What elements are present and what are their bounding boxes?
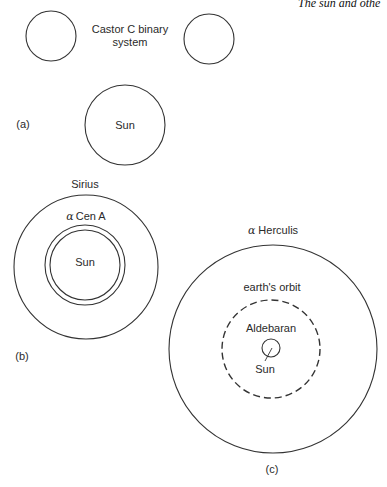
sun-pointer-line	[265, 348, 272, 361]
aldebaran-circle	[262, 339, 280, 357]
panel-b-label: (b)	[15, 350, 28, 362]
castor-c-star-left	[26, 11, 76, 61]
running-header: The sun and othe	[298, 0, 381, 10]
alpha-herculis-circle	[169, 245, 377, 453]
aldebaran-label: Aldebaran	[246, 322, 296, 334]
panel-a: Castor C binary system Sun (a)	[16, 11, 234, 165]
panel-c-label: (c)	[266, 463, 279, 475]
earths-orbit-label: earth's orbit	[243, 281, 300, 293]
castor-caption-line1: Castor C binary	[92, 23, 169, 35]
sun-label-a: Sun	[115, 119, 135, 131]
panel-c: αHerculis earth's orbit Aldebaran Sun (c…	[169, 224, 377, 475]
sun-label-c: Sun	[255, 363, 275, 375]
sun-label-b: Sun	[75, 256, 95, 268]
sirius-label: Sirius	[71, 178, 99, 190]
star-size-diagram: The sun and othe Castor C binary system …	[0, 0, 387, 487]
panel-a-label: (a)	[16, 118, 29, 130]
alpha-cen-a-label: αCen A	[66, 210, 106, 223]
panel-b: Sirius αCen A Sun (b)	[14, 178, 158, 362]
castor-caption-line2: system	[113, 36, 148, 48]
castor-c-star-right	[184, 14, 234, 64]
alpha-herculis-label: αHerculis	[248, 224, 299, 237]
